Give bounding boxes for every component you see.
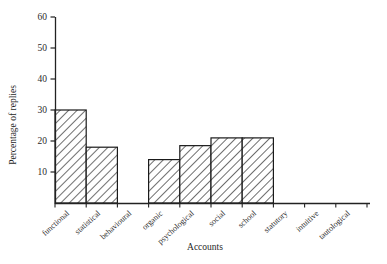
y-tick-label: 10 <box>38 167 48 177</box>
chart-canvas: 102030405060 functionalstatisticalbehavi… <box>0 0 387 264</box>
bar <box>55 110 86 203</box>
y-tick-label: 40 <box>38 74 48 84</box>
bar <box>86 147 117 203</box>
y-axis-title: Percentage of replies <box>8 85 18 165</box>
y-tick-label: 60 <box>38 12 48 22</box>
y-tick-label: 30 <box>38 105 48 115</box>
bar <box>180 146 211 203</box>
bar <box>242 138 273 203</box>
y-tick-label: 50 <box>38 43 48 53</box>
bar-chart: 102030405060 functionalstatisticalbehavi… <box>0 0 387 264</box>
y-tick-label: 20 <box>38 136 48 146</box>
x-axis-title: Accounts <box>187 242 223 252</box>
bar <box>149 160 180 203</box>
bar <box>211 138 242 203</box>
